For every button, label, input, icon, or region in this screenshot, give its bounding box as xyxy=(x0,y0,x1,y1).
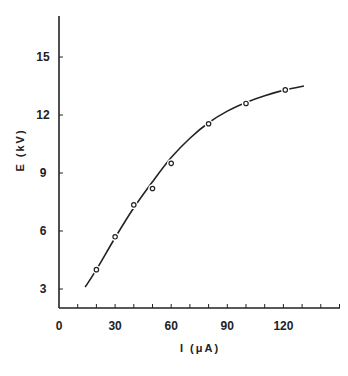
data-point xyxy=(244,101,248,105)
x-axis-title: I (μA) xyxy=(180,342,220,354)
data-point xyxy=(169,161,173,165)
data-point xyxy=(206,122,210,126)
data-point xyxy=(94,267,98,271)
data-point xyxy=(132,203,136,207)
x-tick-label: 60 xyxy=(165,319,179,333)
data-point xyxy=(113,235,117,239)
fitted-curve xyxy=(85,86,304,287)
y-axis-title: E (kV) xyxy=(14,128,26,171)
y-tick-label: 9 xyxy=(40,166,47,180)
x-tick-label: 120 xyxy=(273,319,293,333)
data-point-markers xyxy=(92,86,289,274)
y-tick-label: 3 xyxy=(40,282,47,296)
y-tick-label: 15 xyxy=(36,50,50,64)
x-tick-label: 30 xyxy=(108,319,122,333)
y-tick-label: 12 xyxy=(36,108,50,122)
axes xyxy=(59,16,340,308)
y-tick-label: 6 xyxy=(40,224,47,238)
x-tick-label: 90 xyxy=(221,319,235,333)
data-point xyxy=(150,186,154,190)
x-tick-label: 0 xyxy=(56,319,63,333)
chart-canvas: 03060901203691215 I (μA) E (kV) xyxy=(0,0,348,376)
data-point xyxy=(283,88,287,92)
axis-ticks xyxy=(59,57,340,308)
axis-tick-labels: 03060901203691215 xyxy=(36,50,293,333)
